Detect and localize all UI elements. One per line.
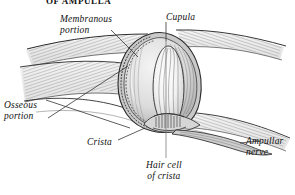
label-crista: Crista: [87, 137, 112, 148]
label-hair-cell-of-crista: Hair cell of crista: [146, 160, 182, 181]
label-osseous-portion: Osseous portion: [4, 100, 37, 121]
label-osseous-portion-line1: Osseous: [4, 100, 37, 111]
label-hair-cell-line1: Hair cell: [146, 160, 182, 171]
label-osseous-portion-line2: portion: [4, 111, 37, 122]
label-ampullar-nerve: Ampullar nerve: [246, 136, 284, 157]
figure-canvas: OF AMPULLA Membranous portion Cupula Oss…: [0, 0, 295, 195]
label-ampullar-nerve-line2: nerve: [246, 147, 284, 158]
figure-title: OF AMPULLA: [46, 0, 111, 6]
label-membranous-portion-line1: Membranous: [60, 14, 112, 25]
label-membranous-portion-line2: portion: [60, 25, 112, 36]
cupula-structure: [153, 46, 184, 124]
label-ampullar-nerve-line1: Ampullar: [246, 136, 284, 147]
label-membranous-portion: Membranous portion: [60, 14, 112, 35]
label-hair-cell-line2: of crista: [146, 171, 182, 182]
label-cupula: Cupula: [166, 12, 195, 23]
